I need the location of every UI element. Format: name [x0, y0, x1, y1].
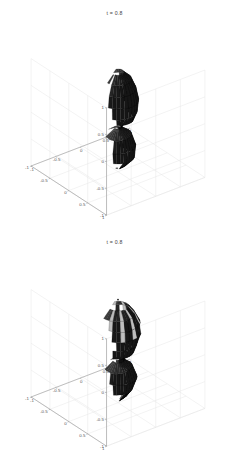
- y-axis-tick-label: 0: [64, 421, 67, 426]
- x-axis-tick-label: -0.5: [53, 388, 61, 393]
- y-axis-tick-label: 0: [64, 190, 67, 195]
- mesh-face: [117, 154, 121, 164]
- y-axis-tick-label: 1: [102, 215, 105, 220]
- z-axis-tick-label: -0.5: [96, 186, 104, 191]
- mesh-face: [117, 385, 121, 395]
- isosurface-mesh: [104, 301, 141, 401]
- mesh-face: [113, 141, 117, 154]
- y-axis-tick-label: -0.5: [40, 409, 48, 414]
- mesh-face: [125, 108, 129, 119]
- z-axis-tick-label: 0.5: [98, 363, 105, 368]
- marker-point: [117, 299, 119, 301]
- y-axis-tick: [86, 434, 87, 435]
- mesh-face: [113, 154, 117, 164]
- mesh-face: [116, 332, 121, 342]
- mesh-face: [116, 97, 120, 109]
- z-axis-tick-label: -0.5: [96, 417, 104, 422]
- mesh-face: [120, 385, 124, 395]
- mesh-face: [113, 351, 117, 359]
- y-axis-tick: [49, 178, 50, 179]
- grid-line-floor-x: [129, 128, 204, 177]
- mesh-face: [117, 351, 121, 359]
- y-axis-tick-label: 0.5: [79, 202, 86, 207]
- x-axis-tick-label: -1: [30, 398, 34, 403]
- plot-panel-top: t = 0.8 10.50-0.5-110.50-0.5-1-1-0.500.5…: [0, 0, 229, 229]
- y-axis-tick-label: 1: [102, 446, 105, 451]
- mesh-face: [116, 360, 118, 363]
- mesh-face: [120, 97, 124, 109]
- y-axis-tick: [86, 203, 87, 204]
- z-axis-tick-label: 0.5: [98, 132, 105, 137]
- mesh-face: [109, 321, 113, 332]
- y-axis-tick: [68, 191, 69, 192]
- mesh-face: [125, 332, 129, 343]
- mesh-face: [116, 343, 121, 352]
- x-axis-tick-label: -1: [30, 167, 34, 172]
- y-axis-tick-label: -1: [25, 165, 29, 170]
- mesh-face: [112, 97, 116, 109]
- mesh-face: [112, 109, 116, 120]
- axes-bottom: 10.50-0.5-110.50-0.5-1-1-0.500.51: [0, 229, 229, 458]
- mesh-face: [112, 321, 116, 332]
- y-axis-tick-label: 0.5: [79, 433, 86, 438]
- x-axis-tick-label: -0.5: [53, 157, 61, 162]
- mesh-face: [112, 332, 117, 343]
- mesh-face: [116, 321, 120, 332]
- y-axis-tick-label: -0.5: [40, 178, 48, 183]
- mesh-face: [113, 374, 117, 385]
- mesh-face: [116, 120, 120, 126]
- grid-line-floor-y: [88, 396, 186, 434]
- mesh-face: [121, 109, 125, 120]
- grid-line-floor-x: [129, 359, 204, 408]
- mesh-face: [116, 168, 118, 169]
- mesh-face: [121, 332, 126, 342]
- mesh-face: [117, 373, 121, 385]
- isosurface-mesh: [106, 69, 139, 169]
- mesh-face: [120, 351, 124, 359]
- y-axis-tick-label: -1: [25, 396, 29, 401]
- x-axis-tick-label: 0.5: [103, 138, 110, 143]
- figure-page: t = 0.8 10.50-0.5-110.50-0.5-1-1-0.500.5…: [0, 0, 229, 458]
- axes-top: 10.50-0.5-110.50-0.5-1-1-0.500.51: [0, 0, 229, 229]
- mesh-face: [113, 385, 117, 395]
- grid-line-floor-y: [88, 165, 186, 203]
- y-axis-tick: [68, 422, 69, 423]
- mesh-face: [117, 360, 118, 363]
- mesh-face: [116, 109, 120, 120]
- y-axis-tick: [49, 409, 50, 410]
- mesh-face: [108, 96, 112, 108]
- plot-panel-bottom: t = 0.8 10.50-0.5-110.50-0.5-1-1-0.500.5…: [0, 229, 229, 458]
